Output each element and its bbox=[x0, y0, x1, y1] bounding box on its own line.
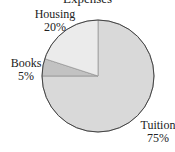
label-housing: Housing 20% bbox=[32, 8, 78, 34]
label-tuition: Tuition 75% bbox=[138, 119, 175, 145]
label-books: Books 5% bbox=[8, 57, 44, 83]
